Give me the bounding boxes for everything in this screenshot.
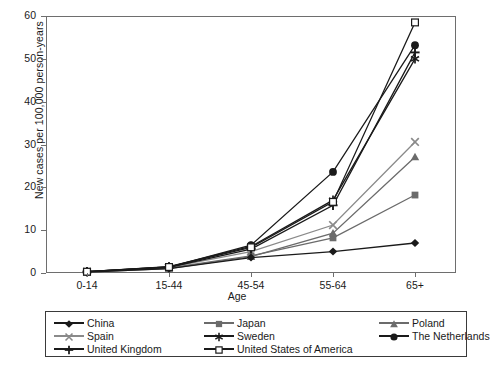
- series-line-the-netherlands: [87, 45, 415, 272]
- legend-label-united-kingdom: United Kingdom: [87, 343, 162, 355]
- series-line-united-kingdom: [87, 52, 415, 271]
- legend-label-china: China: [87, 317, 114, 329]
- legend-label-japan: Japan: [237, 317, 266, 329]
- legend-item-spain[interactable]: Spain: [54, 329, 204, 342]
- y-axis-title: New cases per 100,000 person-years: [33, 0, 45, 235]
- y-tick-label: 60: [6, 9, 36, 21]
- series-line-sweden: [87, 59, 415, 272]
- data-point-marker: [248, 244, 255, 251]
- legend-item-china[interactable]: China: [54, 316, 204, 329]
- series-line-united-states-of-america: [87, 22, 415, 271]
- y-tick-label: 30: [6, 138, 36, 150]
- legend-item-united-kingdom[interactable]: United Kingdom: [54, 342, 204, 355]
- x-tick-mark: [169, 273, 170, 277]
- legend-item-the-netherlands[interactable]: The Netherlands: [379, 329, 494, 342]
- y-tick-mark: [41, 273, 46, 274]
- legend-swatch-united-kingdom: [54, 343, 84, 355]
- legend-item-poland[interactable]: Poland: [379, 316, 494, 329]
- legend-marker-filled-square-icon: [212, 317, 226, 331]
- x-tick-mark: [87, 273, 88, 277]
- legend-swatch-the-netherlands: [379, 330, 409, 342]
- legend-swatch-china: [54, 317, 84, 329]
- legend-label-sweden: Sweden: [237, 330, 275, 342]
- y-tick-label: 50: [6, 52, 36, 64]
- data-point-marker: [411, 153, 419, 161]
- legend-swatch-poland: [379, 317, 409, 329]
- legend-item-japan[interactable]: Japan: [204, 316, 379, 329]
- legend-label-spain: Spain: [87, 330, 114, 342]
- data-point-marker: [412, 192, 419, 199]
- x-tick-mark: [415, 273, 416, 277]
- plot-series-layer: [46, 16, 456, 273]
- y-tick-label: 20: [6, 180, 36, 192]
- y-tick-label: 40: [6, 95, 36, 107]
- legend-item-sweden[interactable]: Sweden: [204, 329, 379, 342]
- legend-label-poland: Poland: [412, 317, 445, 329]
- legend-swatch-japan: [204, 317, 234, 329]
- data-point-marker: [329, 248, 337, 256]
- legend-swatch-spain: [54, 330, 84, 342]
- legend-entry-grid: ChinaJapanPolandSpainSwedenThe Netherlan…: [54, 316, 464, 355]
- legend-marker-x-cross-icon: [62, 330, 76, 344]
- data-point-marker: [412, 19, 419, 26]
- data-point-marker: [411, 138, 419, 146]
- legend-swatch-sweden: [204, 330, 234, 342]
- legend-marker-filled-diamond-icon: [62, 317, 76, 331]
- legend-label-the-netherlands: The Netherlands: [412, 330, 490, 342]
- data-point-marker: [330, 198, 337, 205]
- chart-legend: ChinaJapanPolandSpainSwedenThe Netherlan…: [45, 311, 467, 357]
- data-point-marker: [329, 168, 337, 176]
- legend-item-united-states-of-america[interactable]: United States of America: [204, 342, 379, 355]
- legend-label-united-states-of-america: United States of America: [237, 343, 353, 355]
- data-point-marker: [411, 239, 419, 247]
- data-point-marker: [329, 221, 337, 229]
- legend-swatch-united-states-of-america: [204, 343, 234, 355]
- legend-marker-plus-icon: [62, 343, 76, 357]
- y-tick-label: 0: [6, 266, 36, 278]
- y-tick-label: 10: [6, 223, 36, 235]
- x-axis-title: Age: [0, 290, 474, 302]
- legend-marker-open-square-icon: [212, 343, 226, 357]
- legend-marker-filled-circle-icon: [387, 330, 401, 344]
- x-tick-mark: [251, 273, 252, 277]
- legend-marker-asterisk-icon: [212, 330, 226, 344]
- legend-marker-filled-triangle-icon: [387, 317, 401, 331]
- x-tick-mark: [333, 273, 334, 277]
- line-chart-figure: New cases per 100,000 person-years 01020…: [0, 0, 474, 300]
- data-point-marker: [166, 264, 173, 271]
